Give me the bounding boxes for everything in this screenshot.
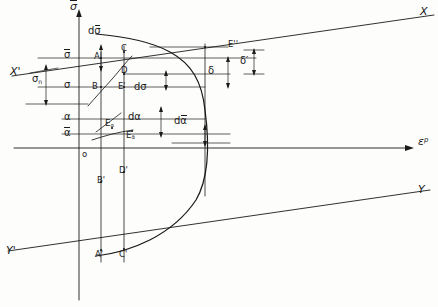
dim-label-sigma: σ [64, 80, 70, 90]
diagram-svg [0, 0, 438, 307]
bounding-label-x-prime: X' [10, 66, 21, 77]
plastic-strain-axis-label: εp [418, 136, 428, 147]
stress-axis-arrowhead [76, 9, 82, 17]
dim-label-sigma-n: σn [32, 74, 42, 85]
point-label-B-prime: B' [97, 176, 105, 185]
bounding-label-x: X [420, 6, 428, 17]
dim-arrow-d-sigma [164, 70, 168, 91]
point-markers [100, 46, 206, 251]
dim-label-alpha-bar: α [64, 128, 71, 138]
point-label-A: A [94, 52, 100, 61]
point-label-E-prime: E' [118, 82, 126, 91]
dim-arrow-d-alpha [159, 106, 163, 138]
point-label-D: D [121, 66, 128, 75]
point-label-A-prime: A' [95, 250, 103, 259]
dim-label-sigma-bar: σ [64, 50, 70, 60]
point-label-B: B [92, 82, 98, 91]
dim-arrow-delta [226, 56, 230, 89]
lower-bounding-line [8, 190, 430, 251]
point-label-D-prime: D' [119, 166, 128, 175]
bounding-label-y-prime: Y' [6, 245, 16, 256]
dim-label-delta-prime: δ′ [240, 56, 248, 66]
dim-label-d-sigma-bar: dσ [88, 26, 101, 36]
dim-label-d-alpha-bar: dα [174, 116, 187, 126]
point-label-E-alpha: Eα [105, 119, 114, 129]
point-label-E-alpha-bar: Eᾱ [126, 131, 135, 141]
upper-bounding-line [12, 15, 434, 76]
dim-label-d-alpha: dα [128, 112, 141, 122]
point-label-C: C [121, 44, 127, 53]
bounding-label-y: Y [418, 184, 425, 195]
dim-label-delta: δ [208, 66, 214, 76]
origin-label: o [82, 150, 87, 159]
dim-label-d-sigma: dσ [134, 82, 147, 92]
stress-axis-label: σ [70, 1, 77, 12]
dim-label-alpha: α [64, 112, 71, 122]
plastic-strain-axis-arrowhead [405, 145, 414, 151]
point-label-E-double-prime: E'' [228, 40, 238, 49]
figure-canvas-root: σ εp o X' X Y' Y A B C D E' E'' Eα Eᾱ A… [0, 0, 438, 307]
loading-curve [96, 34, 208, 256]
point-label-C-prime: C' [119, 250, 127, 259]
